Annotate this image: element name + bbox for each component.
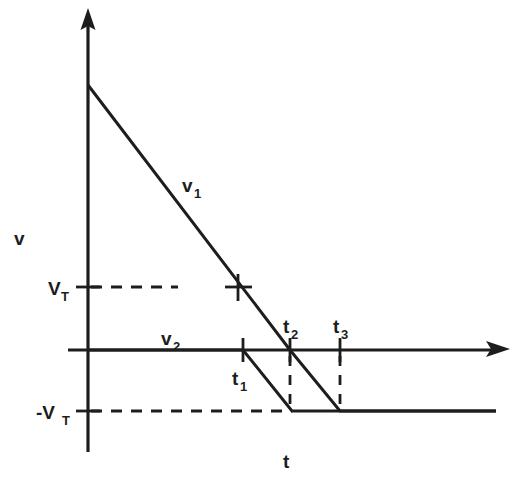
t1-label: t 1 <box>232 368 247 394</box>
svg-text:v: v <box>161 328 172 349</box>
t2-label: t 2 <box>283 316 298 342</box>
curve-v2 <box>88 350 496 411</box>
curve-v1-label: v 1 <box>182 175 201 201</box>
svg-text:3: 3 <box>341 327 348 342</box>
svg-text:1: 1 <box>240 379 247 394</box>
svg-text:t: t <box>333 316 340 337</box>
svg-text:V: V <box>48 278 61 299</box>
voltage-time-diagram: v t V T -V T v 1 v 2 t 1 t 2 t 3 <box>0 0 519 481</box>
curve-v1 <box>88 85 496 411</box>
y-axis-label: v <box>14 228 25 249</box>
x-axis-label: t <box>283 451 290 472</box>
svg-text:t: t <box>283 316 290 337</box>
svg-text:1: 1 <box>194 186 201 201</box>
t3-label: t 3 <box>333 316 348 342</box>
svg-text:t: t <box>232 368 239 389</box>
svg-text:v: v <box>182 175 193 196</box>
vt-negative-label: -V T <box>36 402 70 428</box>
y-axis <box>81 8 96 452</box>
vt-positive-label: V T <box>48 278 69 304</box>
svg-text:-V: -V <box>36 402 55 423</box>
svg-text:2: 2 <box>173 339 180 354</box>
svg-text:2: 2 <box>291 327 298 342</box>
svg-text:T: T <box>62 413 70 428</box>
figure-root: v t V T -V T v 1 v 2 t 1 t 2 t 3 <box>0 0 519 481</box>
svg-text:T: T <box>61 289 69 304</box>
